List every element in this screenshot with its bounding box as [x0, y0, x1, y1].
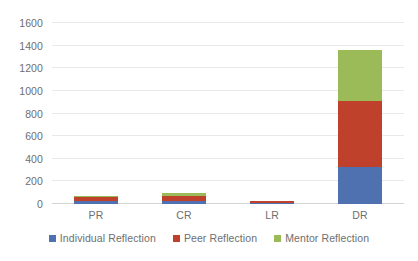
x-axis: PRCRLRDR [52, 206, 404, 224]
legend-label: Individual Reflection [60, 232, 156, 244]
bar-segment-individual[interactable] [74, 201, 118, 204]
y-axis-tick-label: 400 [25, 153, 43, 164]
x-axis-tick-label-cr: CR [140, 206, 228, 224]
plot-area [52, 23, 404, 204]
bar-group-cr[interactable] [140, 23, 228, 204]
x-axis-tick-label-lr: LR [228, 206, 316, 224]
y-axis-tick-label: 0 [37, 199, 43, 210]
y-axis-tick-label: 800 [25, 108, 43, 119]
stacked-column-chart: 02004006008001000120014001600 PRCRLRDR I… [0, 0, 418, 261]
legend-swatch-icon [173, 235, 180, 242]
chart-legend: Individual ReflectionPeer ReflectionMent… [0, 232, 418, 244]
bar-stack [338, 50, 382, 204]
legend-swatch-icon [49, 235, 56, 242]
bar-segment-mentor[interactable] [338, 50, 382, 100]
y-axis-tick-label: 1400 [19, 40, 43, 51]
y-axis-tick-label: 600 [25, 131, 43, 142]
bar-segment-individual[interactable] [338, 167, 382, 204]
y-axis-tick-label: 200 [25, 176, 43, 187]
bar-group-dr[interactable] [316, 23, 404, 204]
legend-label: Peer Reflection [184, 232, 257, 244]
x-axis-tick-label-dr: DR [316, 206, 404, 224]
y-axis: 02004006008001000120014001600 [0, 23, 48, 204]
y-axis-tick-label: 1000 [19, 85, 43, 96]
legend-swatch-icon [274, 235, 281, 242]
bar-stack [74, 196, 118, 204]
bar-groups [52, 23, 404, 204]
y-axis-tick-label: 1600 [19, 18, 43, 29]
x-axis-tick-label-pr: PR [52, 206, 140, 224]
bar-segment-individual[interactable] [250, 203, 294, 204]
legend-item-peer[interactable]: Peer Reflection [173, 232, 257, 244]
legend-item-individual[interactable]: Individual Reflection [49, 232, 156, 244]
bar-group-pr[interactable] [52, 23, 140, 204]
legend-label: Mentor Reflection [285, 232, 369, 244]
bar-stack [250, 201, 294, 204]
y-axis-tick-label: 1200 [19, 63, 43, 74]
bar-segment-individual[interactable] [162, 201, 206, 204]
bar-group-lr[interactable] [228, 23, 316, 204]
bar-stack [162, 193, 206, 204]
bar-segment-peer[interactable] [338, 101, 382, 167]
legend-item-mentor[interactable]: Mentor Reflection [274, 232, 369, 244]
